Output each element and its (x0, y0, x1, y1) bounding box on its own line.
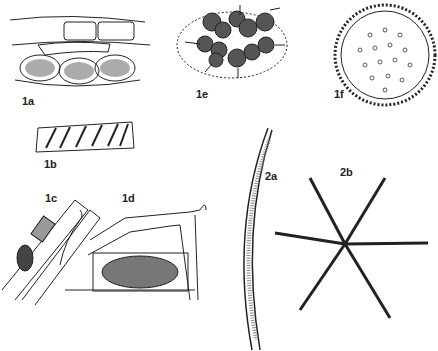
label-1d: 1d (122, 192, 135, 204)
label-1e: 1e (196, 88, 208, 100)
illustration-plate: 1a 1b 1c 1d 1e 1f 2a 2b (0, 0, 438, 351)
panel-1c-1d-drawing (2, 200, 206, 305)
label-1c: 1c (45, 192, 57, 204)
label-1f: 1f (334, 88, 344, 100)
label-2b: 2b (340, 166, 353, 178)
panel-2a-drawing (244, 128, 272, 350)
panel-1e-drawing (177, 5, 287, 78)
label-1b: 1b (44, 158, 57, 170)
panel-2b-drawing (275, 178, 428, 318)
panel-1b-drawing (36, 122, 134, 152)
label-1a: 1a (22, 95, 34, 107)
plate-drawing (0, 0, 438, 351)
panel-1f-drawing (335, 5, 435, 105)
label-2a: 2a (265, 170, 277, 182)
